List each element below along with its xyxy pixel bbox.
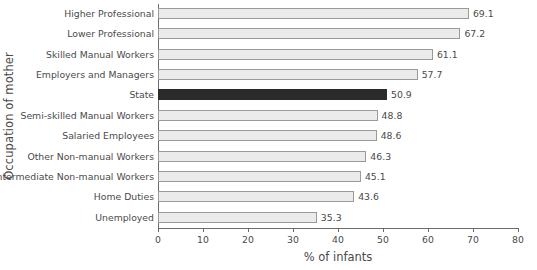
category-label: Unemployed — [95, 208, 154, 228]
category-label: Skilled Manual Workers — [46, 45, 154, 65]
category-label: Salaried Employees — [62, 126, 154, 146]
x-axis-tick-label: 20 — [242, 234, 254, 245]
category-label: State — [129, 85, 154, 105]
bar-row: Salaried Employees48.6 — [158, 126, 518, 146]
bar-row: Intermediate Non-manual Workers45.1 — [158, 167, 518, 187]
y-axis-title: Occupation of mother — [0, 0, 18, 232]
bar — [158, 191, 354, 202]
bar-value-label: 46.3 — [370, 150, 391, 163]
x-axis-tick — [293, 228, 294, 232]
x-axis-tick-label: 10 — [197, 234, 209, 245]
bar — [158, 212, 317, 223]
bar-row: Unemployed35.3 — [158, 208, 518, 228]
x-axis-tick-label: 40 — [332, 234, 344, 245]
x-axis-title: % of infants — [158, 250, 518, 264]
bar-value-label: 67.2 — [464, 27, 485, 40]
bar-chart: Occupation of mother Higher Professional… — [0, 0, 537, 270]
bar-value-label: 69.1 — [473, 7, 494, 20]
bar-value-label: 48.6 — [381, 129, 402, 142]
x-axis-tick-label: 30 — [287, 234, 299, 245]
category-label: Intermediate Non-manual Workers — [0, 167, 154, 187]
bar-value-label: 35.3 — [321, 211, 342, 224]
bar-value-label: 45.1 — [365, 170, 386, 183]
x-axis-tick — [473, 228, 474, 232]
bar — [158, 110, 378, 121]
x-axis-tick-label: 70 — [467, 234, 479, 245]
category-label: Lower Professional — [67, 24, 154, 44]
category-label: Semi-skilled Manual Workers — [20, 106, 154, 126]
bar-row: Other Non-manual Workers46.3 — [158, 147, 518, 167]
x-axis-tick — [518, 228, 519, 232]
bar — [158, 49, 433, 60]
x-axis-tick-label: 50 — [377, 234, 389, 245]
bar-row: Employers and Managers57.7 — [158, 65, 518, 85]
x-axis-tick — [338, 228, 339, 232]
category-label: Higher Professional — [64, 4, 154, 24]
category-label: Other Non-manual Workers — [27, 147, 154, 167]
x-axis-tick-label: 0 — [155, 234, 161, 245]
bar-row: Lower Professional67.2 — [158, 24, 518, 44]
bar — [158, 28, 460, 39]
x-axis-tick-label: 80 — [512, 234, 524, 245]
bar — [158, 171, 361, 182]
bar — [158, 69, 418, 80]
y-axis-title-label: Occupation of mother — [2, 52, 16, 180]
category-label: Home Duties — [94, 187, 154, 207]
x-axis-tick — [203, 228, 204, 232]
x-axis-tick-label: 60 — [422, 234, 434, 245]
bar-row: State50.9 — [158, 85, 518, 105]
bar — [158, 130, 377, 141]
bar-row: Home Duties43.6 — [158, 187, 518, 207]
bar-value-label: 61.1 — [437, 48, 458, 61]
bar — [158, 8, 469, 19]
bar — [158, 89, 387, 100]
bar-value-label: 48.8 — [382, 109, 403, 122]
category-label: Employers and Managers — [36, 65, 154, 85]
bar-row: Higher Professional69.1 — [158, 4, 518, 24]
x-axis-tick — [428, 228, 429, 232]
bar-value-label: 50.9 — [391, 88, 412, 101]
bar-row: Semi-skilled Manual Workers48.8 — [158, 106, 518, 126]
plot-area: Higher Professional69.1Lower Professiona… — [158, 4, 518, 228]
bar — [158, 151, 366, 162]
x-axis-tick — [383, 228, 384, 232]
bar-value-label: 57.7 — [422, 68, 443, 81]
bar-row: Skilled Manual Workers61.1 — [158, 45, 518, 65]
x-axis-tick — [158, 228, 159, 232]
x-axis-tick — [248, 228, 249, 232]
bar-value-label: 43.6 — [358, 190, 379, 203]
